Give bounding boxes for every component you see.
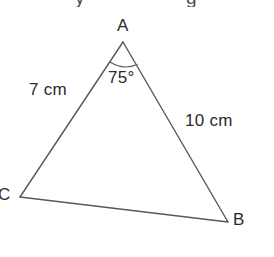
- vertex-label-a: A: [117, 17, 129, 34]
- vertex-label-c: C: [0, 186, 10, 203]
- side-length-label-ab: 10 cm: [185, 112, 233, 129]
- side-length-label-ac: 7 cm: [29, 81, 67, 98]
- angle-label-a: 75°: [108, 69, 135, 86]
- triangle-side-ab: [123, 42, 228, 222]
- triangle-side-ac: [20, 42, 123, 197]
- triangle-figure: y g A C B 7 cm 10 cm 75°: [0, 0, 274, 257]
- angle-arc-a-icon: [110, 62, 137, 67]
- vertex-label-b: B: [233, 211, 245, 228]
- triangle-side-cb: [20, 197, 228, 222]
